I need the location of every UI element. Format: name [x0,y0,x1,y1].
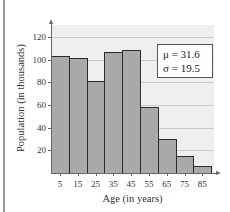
x-tick-label: 55 [140,179,158,189]
y-axis-arrow-icon [49,19,53,24]
x-tick [60,173,61,176]
y-tick-label: 20 [26,145,46,155]
x-tick [131,173,132,176]
x-tick [113,173,114,176]
x-tick-label: 75 [176,179,194,189]
histogram-bar [122,50,141,174]
y-tick [48,128,52,129]
x-tick [96,173,97,176]
x-tick-label: 45 [122,179,140,189]
x-tick-label: 15 [69,179,87,189]
y-tick-label: 120 [26,32,46,42]
histogram-bar [158,139,177,174]
y-tick-label: 80 [26,77,46,87]
y-tick-label: 60 [26,100,46,110]
y-tick [48,60,52,61]
x-tick-label: 5 [51,179,69,189]
x-axis-arrow-icon [216,171,221,175]
x-tick [167,173,168,176]
histogram-bar [104,52,123,174]
y-tick [48,150,52,151]
mean-label: μ = 31.6 [163,47,212,61]
x-axis [51,173,218,174]
y-tick [48,82,52,83]
stats-legend-box: μ = 31.6 σ = 19.5 [157,44,213,78]
y-tick [48,37,52,38]
y-tick [48,105,52,106]
page-margin-rule [3,0,5,212]
histogram-bar [69,58,88,174]
x-tick-label: 65 [158,179,176,189]
x-tick [78,173,79,176]
y-axis-title: Population (in thousands) [15,18,26,178]
x-axis-title: Age (in years) [51,193,214,204]
histogram-bar [140,107,159,174]
histogram-bar [87,81,106,174]
x-tick-label: 35 [104,179,122,189]
gridline [51,37,214,38]
x-tick-label: 85 [193,179,211,189]
histogram-bar [176,156,195,174]
std-dev-label: σ = 19.5 [163,61,212,75]
y-tick-label: 40 [26,123,46,133]
x-tick [149,173,150,176]
x-tick [202,173,203,176]
x-tick-label: 25 [87,179,105,189]
y-tick-label: 100 [26,55,46,65]
histogram-bar [51,56,70,174]
x-tick [185,173,186,176]
